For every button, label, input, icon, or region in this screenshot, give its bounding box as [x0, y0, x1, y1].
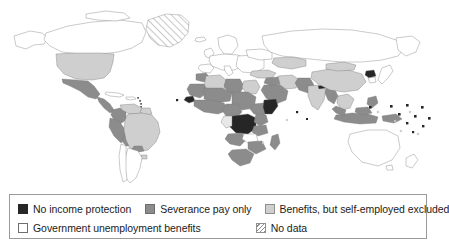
region-gabon-congo — [221, 116, 232, 128]
region-australia — [348, 130, 400, 166]
region-alaska — [14, 31, 48, 49]
legend-label-benefits-self-employed-excluded: Benefits, but self-employed excluded — [280, 203, 449, 215]
region-japan — [378, 65, 393, 84]
legend-label-severance-pay-only: Severance pay only — [160, 203, 251, 215]
region-north-korea — [365, 70, 376, 78]
legend-swatch-government-unemployment-benefits — [18, 223, 28, 233]
region-sierra-leone — [184, 96, 195, 103]
region-iraq-syria — [264, 77, 280, 86]
region-canada-arctic — [86, 11, 130, 21]
region-new-zealand — [406, 154, 418, 168]
region-philippines — [367, 96, 378, 108]
legend-row-1: No income protection Severance pay only … — [16, 200, 420, 218]
region-south-korea — [368, 77, 376, 83]
region-argentina — [125, 148, 142, 183]
region-hispaniola — [126, 97, 136, 100]
legend-item-severance-pay-only[interactable]: Severance pay only — [145, 203, 251, 215]
region-chile — [119, 144, 127, 182]
region-scandinavia — [218, 35, 238, 54]
region-cuba — [105, 92, 124, 97]
legend-row-2: Government unemployment benefits No data — [16, 219, 420, 237]
region-canada — [44, 20, 146, 54]
legend: No income protection Severance pay only … — [9, 194, 427, 239]
region-united-states — [56, 53, 114, 80]
region-madagascar — [270, 134, 280, 150]
legend-swatch-severance-pay-only — [145, 204, 155, 214]
legend-item-no-income-protection[interactable]: No income protection — [18, 203, 131, 215]
region-kazakhstan — [272, 57, 306, 69]
legend-label-government-unemployment-benefits: Government unemployment benefits — [33, 222, 201, 234]
region-somalia — [263, 99, 278, 114]
map-area — [0, 0, 438, 188]
region-iceland — [195, 37, 206, 42]
region-central-america — [97, 97, 114, 113]
region-tasmania — [386, 165, 393, 170]
legend-label-no-income-protection: No income protection — [33, 203, 131, 215]
region-turkey — [250, 70, 276, 78]
region-mexico — [62, 79, 100, 99]
region-dr-congo — [229, 114, 256, 134]
legend-swatch-benefits-self-employed-excluded — [265, 204, 275, 214]
region-south-africa — [228, 149, 254, 166]
world-map-svg — [0, 0, 438, 188]
legend-label-no-data: No data — [271, 222, 307, 234]
region-russia — [262, 29, 404, 62]
legend-swatch-no-income-protection — [18, 204, 28, 214]
region-india — [308, 85, 326, 110]
legend-item-no-data[interactable]: No data — [256, 222, 307, 234]
legend-item-government-unemployment-benefits[interactable]: Government unemployment benefits — [18, 222, 201, 234]
region-greenland — [146, 14, 189, 47]
legend-swatch-no-data — [256, 223, 266, 233]
legend-item-benefits-self-employed-excluded[interactable]: Benefits, but self-employed excluded — [265, 203, 449, 215]
region-mongolia — [326, 62, 356, 71]
